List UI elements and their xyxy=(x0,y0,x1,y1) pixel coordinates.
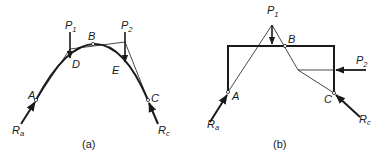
thrust-line xyxy=(228,25,334,93)
label-b: B xyxy=(288,33,295,45)
label-ra: Ra xyxy=(12,124,24,138)
caption-a: (a) xyxy=(82,138,95,150)
label-a: A xyxy=(231,90,239,102)
label-c: C xyxy=(324,93,332,105)
point-b-marker xyxy=(91,42,94,45)
point-c-marker xyxy=(332,91,335,94)
label-c: C xyxy=(151,92,159,104)
label-rc: Rc xyxy=(158,124,170,138)
label-p1: P1 xyxy=(65,19,77,34)
label-ra: Ra xyxy=(207,118,219,132)
diagram-canvas: P1 P2 B D E A C Ra Rc (a) P1 B P2 A C R xyxy=(0,0,384,159)
caption-b: (b) xyxy=(273,138,286,150)
label-p2: P2 xyxy=(121,19,133,34)
portal-frame xyxy=(228,46,334,93)
point-c-marker xyxy=(146,98,149,101)
label-e: E xyxy=(112,64,120,76)
label-d: D xyxy=(72,58,80,70)
label-rc: Rc xyxy=(359,113,371,127)
label-b: B xyxy=(88,30,95,42)
figure-a: P1 P2 B D E A C Ra Rc (a) xyxy=(12,19,170,150)
reaction-ra-arrow xyxy=(21,102,35,124)
label-p1: P1 xyxy=(267,4,279,19)
label-p2: P2 xyxy=(356,54,368,69)
reaction-rc-arrow xyxy=(336,95,360,117)
point-a-marker xyxy=(226,90,229,93)
point-b-marker xyxy=(283,44,286,47)
figure-b: P1 B P2 A C Ra Rc (b) xyxy=(207,4,371,150)
thrust-line xyxy=(36,42,148,100)
arch-curve xyxy=(36,44,148,100)
label-a: A xyxy=(27,89,35,101)
reaction-rc-arrow xyxy=(149,103,158,124)
